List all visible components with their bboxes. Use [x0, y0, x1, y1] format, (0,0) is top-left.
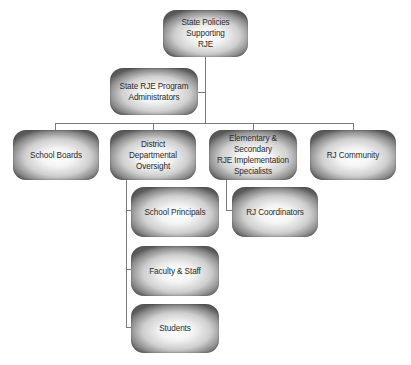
connector-elem-trunk [226, 178, 227, 211]
connector-row-bus [55, 123, 354, 124]
node-state-rje-program-administrators: State RJE Program Administrators [110, 68, 198, 115]
node-district-departmental-oversight: District Departmental Oversight [110, 130, 196, 180]
node-rj-coordinators: RJ Coordinators [232, 187, 318, 237]
connector-admins [198, 92, 206, 93]
node-elementary-secondary-specialists: Elementary & Secondary RJE Implementatio… [209, 130, 297, 180]
node-state-policies: State Policies Supporting RJE [163, 10, 248, 57]
node-students: Students [131, 304, 219, 353]
connector-root-trunk [205, 57, 206, 124]
node-rj-community: RJ Community [310, 130, 396, 180]
node-faculty-staff: Faculty & Staff [131, 246, 219, 296]
node-school-principals: School Principals [131, 187, 219, 237]
connector-district-trunk [126, 178, 127, 328]
node-school-boards: School Boards [13, 130, 99, 180]
